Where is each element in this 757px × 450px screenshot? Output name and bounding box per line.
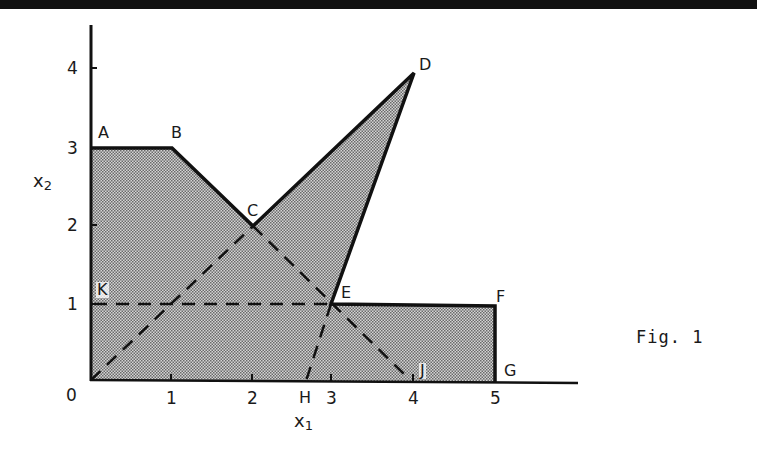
y-axis-title: x2 — [33, 172, 52, 192]
point-label-c: C — [247, 203, 258, 219]
x-tick-label-0: 0 — [66, 387, 77, 404]
x-axis — [90, 380, 578, 383]
point-label-g: G — [504, 363, 516, 379]
y-tick-label-1: 1 — [67, 296, 78, 313]
x-tick-label-1: 1 — [166, 390, 177, 407]
y-axis-title-main: x — [33, 170, 44, 191]
y-tick-label-3: 3 — [67, 140, 78, 157]
figure-caption: Fig. 1 — [636, 327, 703, 347]
y-axis-title-subscript: 2 — [44, 178, 52, 193]
point-label-j: J — [419, 363, 426, 379]
x-tick-label-5: 5 — [490, 390, 501, 407]
point-label-b: B — [171, 125, 182, 141]
point-label-d: D — [419, 57, 431, 73]
feasible-region-diagram — [0, 0, 757, 450]
x-axis-title-main: x — [294, 410, 305, 431]
point-label-a: A — [98, 125, 109, 141]
point-label-h: H — [299, 390, 311, 406]
y-tick-label-4: 4 — [67, 60, 78, 77]
x-tick-label-2: 2 — [247, 390, 258, 407]
point-label-e: E — [341, 285, 351, 301]
x-tick-label-4: 4 — [408, 390, 419, 407]
y-tick-label-2: 2 — [67, 217, 78, 234]
point-label-f: F — [496, 289, 505, 305]
point-label-k: K — [96, 282, 109, 298]
x-tick-label-3: 3 — [326, 390, 337, 407]
shaded-region — [91, 73, 495, 382]
x-axis-title-subscript: 1 — [305, 418, 313, 433]
x-axis-title: x1 — [294, 412, 313, 432]
